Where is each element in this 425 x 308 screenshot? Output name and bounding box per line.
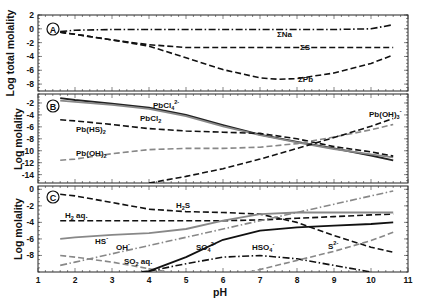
svg-text:3: 3 bbox=[110, 275, 115, 285]
svg-text:-4: -4 bbox=[26, 217, 34, 227]
panel-a-badge: A bbox=[47, 23, 59, 35]
series-line bbox=[60, 194, 393, 252]
label-so4: SO42- bbox=[196, 241, 216, 253]
label-h2s: H2S bbox=[176, 201, 191, 211]
svg-text:8: 8 bbox=[295, 275, 300, 285]
svg-text:4: 4 bbox=[147, 275, 152, 285]
label-pbcl4: PbCl42- bbox=[153, 99, 179, 111]
series-line bbox=[60, 125, 393, 161]
label-sum-pb: ΣPb bbox=[298, 75, 313, 84]
svg-text:6: 6 bbox=[221, 275, 226, 285]
label-pboh2: Pb(OH)2 bbox=[76, 149, 107, 159]
panel-c-ylabel: Log molality bbox=[12, 198, 24, 260]
label-sum-na: ΣNa bbox=[277, 30, 293, 39]
label-hso4: HSO4- bbox=[252, 241, 274, 253]
series-line bbox=[60, 32, 393, 79]
svg-text:-8: -8 bbox=[26, 79, 34, 89]
tick-marks bbox=[38, 15, 408, 272]
svg-text:-10: -10 bbox=[22, 146, 35, 156]
panel-a-annotations: ΣNa ΣS ΣPb bbox=[277, 30, 313, 84]
label-s2: S2- bbox=[328, 240, 338, 251]
svg-text:-2: -2 bbox=[26, 98, 34, 108]
label-pboh3: Pb(OH)3- bbox=[369, 108, 402, 120]
svg-text:10: 10 bbox=[366, 275, 376, 285]
svg-text:-14: -14 bbox=[22, 170, 35, 180]
svg-text:-8: -8 bbox=[26, 250, 34, 260]
svg-text:0: 0 bbox=[29, 184, 34, 194]
svg-text:-6: -6 bbox=[26, 234, 34, 244]
svg-text:-2: -2 bbox=[26, 38, 34, 48]
svg-text:1: 1 bbox=[36, 275, 41, 285]
svg-text:11: 11 bbox=[404, 275, 413, 285]
svg-text:B: B bbox=[50, 102, 57, 112]
label-oh: OH- bbox=[116, 241, 130, 252]
label-hs: HS- bbox=[95, 235, 108, 246]
panel-a-ylabel: Log total molality bbox=[4, 9, 16, 96]
svg-text:-2: -2 bbox=[26, 201, 34, 211]
x-tick-labels: 1234567891011 bbox=[36, 275, 413, 285]
svg-text:2: 2 bbox=[73, 275, 78, 285]
series-line bbox=[149, 119, 393, 184]
panel-a-frame bbox=[38, 15, 408, 91]
svg-text:C: C bbox=[50, 193, 57, 203]
svg-text:-8: -8 bbox=[26, 134, 34, 144]
x-axis-title: pH bbox=[213, 286, 227, 298]
panel-b-frame bbox=[38, 94, 408, 183]
svg-text:0: 0 bbox=[29, 24, 34, 34]
label-pbcl2: PbCl2 bbox=[140, 114, 161, 124]
svg-text:7: 7 bbox=[258, 275, 263, 285]
svg-text:-4: -4 bbox=[26, 110, 34, 120]
svg-text:9: 9 bbox=[332, 275, 337, 285]
panel-b-badge: B bbox=[47, 100, 59, 112]
label-pbhs2: Pb(HS)2 bbox=[76, 125, 106, 135]
svg-text:-12: -12 bbox=[22, 158, 35, 168]
svg-text:A: A bbox=[50, 25, 57, 35]
label-h2aq: H2 aq. bbox=[65, 211, 88, 221]
series-line bbox=[60, 25, 393, 32]
label-sum-s: ΣS bbox=[300, 43, 311, 52]
svg-text:-6: -6 bbox=[26, 65, 34, 75]
panel-c-badge: C bbox=[47, 191, 59, 203]
svg-text:-4: -4 bbox=[26, 51, 34, 61]
svg-text:-6: -6 bbox=[26, 122, 34, 132]
figure: Log total molality Log molality Log mola… bbox=[0, 0, 425, 308]
svg-text:5: 5 bbox=[184, 275, 189, 285]
label-so2aq: SO2 aq. bbox=[124, 257, 152, 267]
svg-text:2: 2 bbox=[29, 10, 34, 20]
data-series bbox=[60, 25, 393, 272]
